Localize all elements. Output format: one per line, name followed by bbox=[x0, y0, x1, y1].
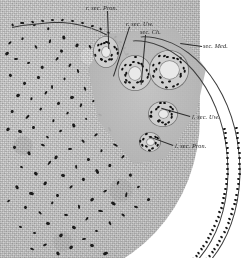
margin-epithelial-nucleus bbox=[238, 162, 241, 164]
margin-epithelial-nucleus bbox=[226, 167, 229, 169]
surface-epithelium-line bbox=[52, 22, 62, 23]
margin-epithelial-nucleus bbox=[226, 172, 229, 174]
label-sec-med: sec. Med. bbox=[203, 42, 228, 49]
micrograph-field: r. sec. Pron.r. sec. Uw.sec. Ch.sec. Med… bbox=[0, 0, 252, 258]
tubule-epithelial-nucleus bbox=[128, 80, 132, 83]
tubule-epithelial-nucleus bbox=[116, 51, 119, 54]
mesenchyme-nucleus bbox=[41, 66, 44, 69]
tubule-epithelial-nucleus bbox=[98, 49, 101, 52]
tubule-l-sec-pron-tubule bbox=[139, 132, 161, 152]
mesenchyme-nucleus bbox=[68, 148, 72, 150]
margin-epithelial-nucleus bbox=[234, 126, 237, 129]
tubule-epithelial-nucleus bbox=[142, 137, 146, 141]
micrograph-plate: r. sec. Pron.r. sec. Uw.sec. Ch.sec. Med… bbox=[0, 0, 252, 274]
tubule-epithelial-nucleus bbox=[147, 149, 150, 152]
margin-epithelial-nucleus bbox=[234, 198, 237, 201]
label-r-sec-uw: r. sec. Uw. bbox=[126, 20, 153, 27]
tubule-epithelial-nucleus bbox=[123, 63, 127, 67]
tubule-epithelial-nucleus bbox=[140, 144, 144, 148]
label-l-sec-uw: l. sec. Uw. bbox=[192, 113, 219, 120]
margin-epithelial-nucleus bbox=[224, 182, 227, 185]
margin-epithelial-nucleus bbox=[235, 193, 238, 196]
label-sec-ch: sec. Ch. bbox=[140, 28, 161, 35]
margin-epithelial-nucleus bbox=[238, 173, 241, 175]
mesenchyme-nucleus bbox=[98, 210, 103, 212]
mesenchyme-nucleus bbox=[60, 50, 63, 53]
plate-bottom-margin bbox=[0, 258, 252, 274]
mesenchyme-nucleus bbox=[11, 110, 14, 113]
mesenchyme-nucleus bbox=[29, 192, 34, 196]
mesenchyme-nucleus bbox=[62, 35, 66, 39]
tubule-epithelial-nucleus bbox=[121, 68, 124, 72]
margin-epithelial-nucleus bbox=[225, 177, 228, 179]
margin-epithelial-nucleus bbox=[223, 192, 226, 195]
tubule-epithelial-nucleus bbox=[132, 61, 135, 64]
margin-epithelial-nucleus bbox=[238, 152, 241, 154]
tubule-epithelial-nucleus bbox=[94, 53, 97, 57]
tubule-epithelial-nucleus bbox=[150, 110, 153, 113]
margin-epithelial-nucleus bbox=[237, 147, 240, 149]
tubule-epithelial-nucleus bbox=[135, 81, 138, 84]
tubule-lumen bbox=[129, 67, 141, 80]
tubule-epithelial-nucleus bbox=[125, 71, 127, 74]
margin-epithelial-nucleus bbox=[226, 162, 229, 164]
margin-epithelial-nucleus bbox=[238, 168, 241, 170]
tubule-epithelial-nucleus bbox=[156, 143, 160, 147]
tubule-epithelial-nucleus bbox=[129, 63, 133, 67]
tubule-epithelial-nucleus bbox=[104, 60, 107, 63]
label-l-sec-pron: l. sec. Pron. bbox=[175, 142, 206, 149]
margin-epithelial-nucleus bbox=[224, 187, 227, 190]
margin-epithelial-nucleus bbox=[235, 131, 238, 134]
label-r-sec-pron: r. sec. Pron. bbox=[86, 4, 117, 11]
tubule-epithelial-nucleus bbox=[115, 47, 118, 50]
tubule-r-sec-pron-tubule bbox=[93, 36, 119, 68]
tubule-lumen bbox=[147, 139, 154, 145]
mesenchyme-nucleus bbox=[37, 76, 40, 79]
tubule-epithelial-nucleus bbox=[132, 86, 135, 89]
margin-epithelial-nucleus bbox=[237, 141, 240, 144]
margin-epithelial-nucleus bbox=[236, 136, 239, 139]
margin-epithelial-nucleus bbox=[222, 127, 225, 130]
tubule-epithelial-nucleus bbox=[134, 56, 137, 59]
